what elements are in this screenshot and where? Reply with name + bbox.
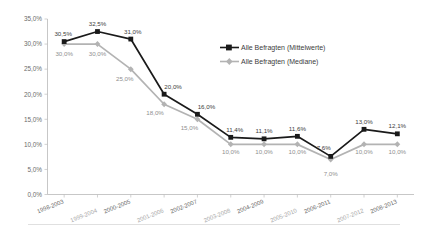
data-point-marker [228,135,233,140]
data-point-marker [162,92,167,97]
data-point-label: 25,0% [116,75,134,82]
y-tick-label: 25,0% [24,65,42,72]
data-point-label: 10,0% [355,148,373,155]
data-point-marker [328,154,333,159]
y-tick-label: 10,0% [24,141,42,148]
data-point-label: 11,6% [289,125,307,132]
data-point-label: 32,5% [89,20,107,27]
data-point-marker [128,37,133,42]
data-point-label: 16,0% [198,103,216,110]
data-point-label: 20,0% [164,83,182,90]
y-tick-label: 35,0% [24,15,42,22]
data-point-label: 11,1% [256,127,274,134]
y-tick-label: 30,0% [24,40,42,47]
legend-marker-square-icon [226,45,232,51]
data-point-label: 30,0% [89,50,107,57]
data-point-label: 30,0% [55,50,73,57]
y-tick-label: 0,0% [27,191,42,198]
data-point-label: 7,6% [317,144,332,151]
legend-label-mittelwerte: Alle Befragten (Mittelwerte) [241,44,325,52]
data-point-marker [395,131,400,136]
data-point-marker [295,134,300,139]
data-point-label: 10,0% [389,148,407,155]
data-point-label: 7,0% [324,170,339,177]
line-chart: 0,0%5,0%10,0%15,0%20,0%25,0%30,0%35,0% 3… [0,0,423,232]
chart-container: 0,0%5,0%10,0%15,0%20,0%25,0%30,0%35,0% 3… [0,0,423,232]
data-point-marker [62,39,67,44]
legend-label-mediane: Alle Befragten (Mediane) [241,58,318,66]
data-point-label: 13,0% [355,118,373,125]
data-point-label: 11,4% [226,126,244,133]
data-point-label: 31,0% [124,28,142,35]
data-point-marker [262,136,267,141]
y-tick-label: 20,0% [24,91,42,98]
y-tick-label: 5,0% [27,166,42,173]
data-point-marker [195,112,200,117]
data-point-label: 15,0% [181,124,199,131]
data-point-label: 10,0% [222,148,240,155]
y-tick-label: 15,0% [24,116,42,123]
data-point-marker [362,127,367,132]
data-point-label: 12,1% [389,122,407,129]
data-point-marker [95,29,100,34]
data-point-label: 10,0% [255,148,273,155]
data-point-label: 10,0% [289,148,307,155]
data-point-label: 18,0% [146,109,164,116]
data-point-label: 30,5% [54,30,72,37]
